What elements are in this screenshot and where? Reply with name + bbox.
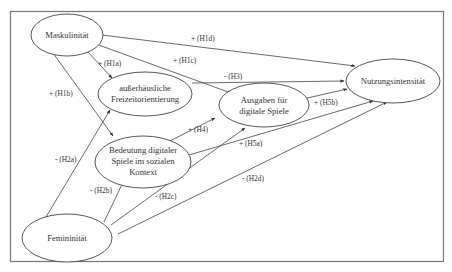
node-label-line3: Kontext [129,167,157,177]
edge-label-h1c: + (H1c) [173,56,197,65]
edge-label-h5a: + (H5a) [239,139,263,148]
node-label-line1: Ausgaben für [241,95,288,105]
edge-label-h2c: - (H2c) [155,192,177,201]
node-femininitaet: Femininität [22,214,112,262]
edge-label-h2a: - (H2a) [55,155,77,164]
edge-label-h1d: + (H1d) [191,34,215,43]
node-label-line1: Bedeutung digitaler [109,145,177,155]
edge-label-h2d: - (H2d) [242,174,264,183]
edge-label-h5b: + (H5b) [314,98,338,107]
hypotheses-diagram: + (H1a) + (H1b) + (H1c) + (H1d) - (H2a) … [0,0,452,272]
edge-label-h2b: - (H2b) [90,186,112,195]
node-label-line2: Freizeitorientierung [111,94,180,104]
node-ausgaben: Ausgaben für digitale Spiele [219,83,309,127]
edge-label-h1a: + (H1a) [98,59,122,68]
node-label-line1: außerhäusliche [119,83,171,93]
node-label-line2: digitale Spiele [239,106,289,116]
node-label: Maskulinität [45,30,89,40]
node-nutzungsintensitaet: Nutzungsintensität [346,59,440,103]
node-label-line2: Spiele im sozialen [111,156,175,166]
edge-label-h4: + (H4) [188,125,209,134]
node-label: Femininität [47,233,87,243]
node-bedeutung: Bedeutung digitaler Spiele im sozialen K… [95,136,191,188]
node-freizeitorientierung: außerhäusliche Freizeitorientierung [98,72,192,116]
node-label: Nutzungsintensität [361,76,426,86]
node-maskulinitaet: Maskulinität [31,14,103,56]
edge-label-h1b: + (H1b) [49,89,73,98]
edge-label-h3: - (H3) [224,72,243,81]
